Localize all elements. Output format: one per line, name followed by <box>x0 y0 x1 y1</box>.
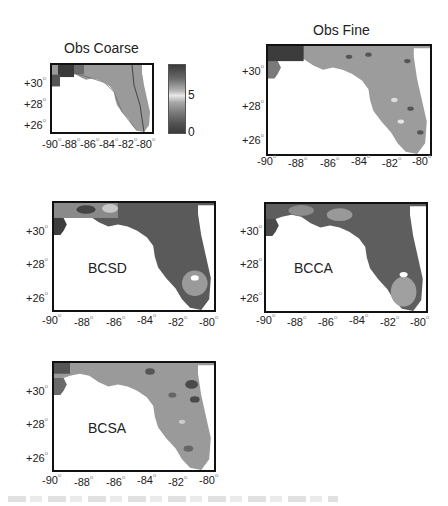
map-obs-coarse <box>52 65 152 132</box>
figure-caption-fragment <box>8 496 338 502</box>
map-frame <box>50 63 154 134</box>
map-frame <box>52 361 216 472</box>
panel-title: Obs Coarse <box>64 40 139 56</box>
map-bcca <box>266 204 426 311</box>
panel-title: Obs Fine <box>313 22 370 38</box>
colorbar <box>168 64 186 134</box>
method-label: BCCA <box>294 260 333 276</box>
method-label: BCSD <box>88 260 127 276</box>
method-label: BCSA <box>88 420 126 436</box>
colorbar-tick: 5 <box>188 88 195 102</box>
map-frame <box>52 201 216 312</box>
map-obs-fine <box>268 46 430 154</box>
map-frame <box>266 44 432 156</box>
map-frame <box>264 202 428 313</box>
map-bcsd <box>54 203 214 310</box>
map-bcsa <box>54 363 214 470</box>
colorbar-tick: 0 <box>188 125 195 139</box>
